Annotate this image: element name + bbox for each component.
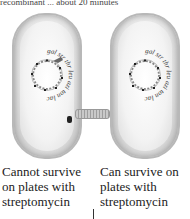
bacterium-cell-left: gal str thr leu azi ton lac xyxy=(12,13,82,159)
conjugation-pilus xyxy=(75,109,110,119)
dna-fragment xyxy=(67,116,72,123)
caption-left: Cannot survive on plates with streptomyc… xyxy=(2,164,94,209)
caption-line: Can survive on xyxy=(100,164,190,179)
chromosome-circle-right: gal str thr leu azi ton lac xyxy=(117,47,173,103)
caption-line: streptomycin xyxy=(100,194,190,209)
caption-line: Cannot survive xyxy=(2,164,94,179)
caption-line: on plates with xyxy=(2,179,94,194)
bacterium-cell-right: gal str thr leu azi ton lac xyxy=(110,13,180,159)
caption-line: plates with xyxy=(100,179,190,194)
divider-line xyxy=(93,209,94,219)
chromosome-circle-left: gal str thr leu azi ton lac xyxy=(19,47,75,103)
cropped-header-text: recombinant ... about 20 minutes xyxy=(0,0,190,5)
caption-line: streptomycin xyxy=(2,194,94,209)
caption-right: Can survive on plates with streptomycin xyxy=(100,164,190,209)
